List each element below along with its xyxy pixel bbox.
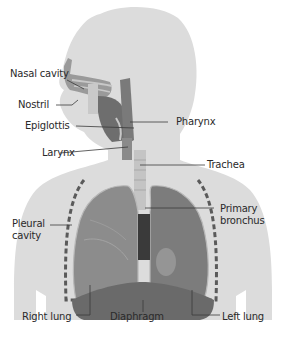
label-epiglottis: Epiglottis <box>25 120 70 132</box>
label-larynx: Larynx <box>42 147 75 159</box>
label-pleural-cavity: Pleural cavity <box>12 218 52 242</box>
label-diaphragm: Diaphragm <box>110 311 164 323</box>
label-primary-bronchus: Primary bronchus <box>220 203 270 227</box>
respiratory-system-diagram: Nasal cavity Nostril Epiglottis Larynx P… <box>0 0 286 338</box>
label-nasal-cavity: Nasal cavity <box>10 68 69 80</box>
label-right-lung: Right lung <box>22 311 71 323</box>
label-nostril: Nostril <box>18 99 49 111</box>
label-left-lung: Left lung <box>222 311 264 323</box>
label-pharynx: Pharynx <box>176 116 215 128</box>
label-trachea: Trachea <box>207 159 245 171</box>
